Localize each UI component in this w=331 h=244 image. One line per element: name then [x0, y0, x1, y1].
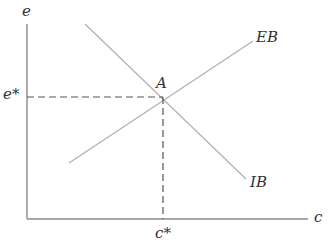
y-axis-label: e — [22, 2, 31, 20]
x-axis-label: c — [314, 208, 323, 226]
c-star-label: c* — [155, 224, 171, 242]
diagram-canvas: e c EB IB A e* c* — [0, 0, 331, 244]
eb-label: EB — [255, 28, 278, 46]
point-a-label: A — [154, 74, 167, 92]
e-star-label: e* — [3, 85, 20, 103]
ib-label: IB — [249, 173, 267, 191]
eb-curve — [69, 41, 253, 163]
ib-curve — [85, 24, 246, 179]
